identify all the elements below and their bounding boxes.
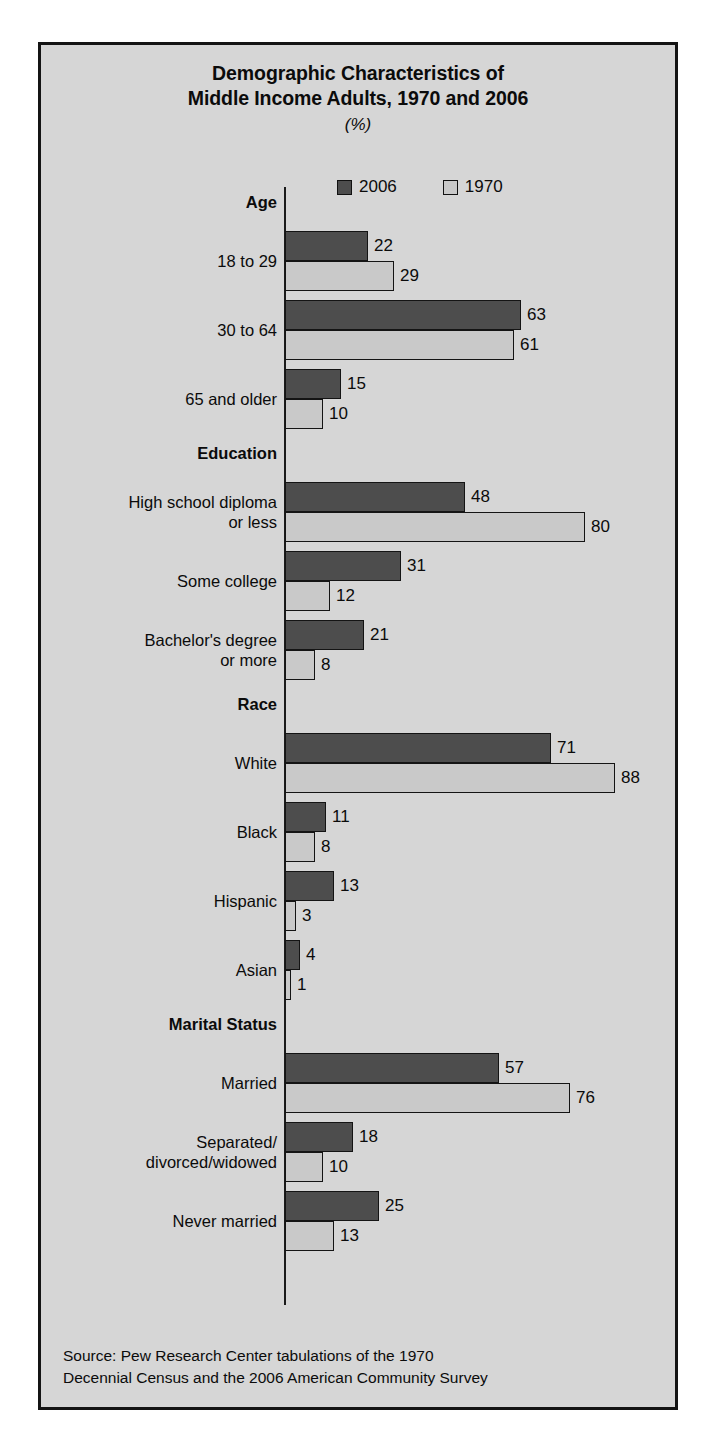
bar-value-white-1970: 88 [621,763,640,793]
bar-value-30-to-64-2006: 63 [527,300,546,330]
bar-married-1970 [285,1083,570,1113]
bar-value-separated-divorced-widowed-1970: 10 [329,1152,348,1182]
category-label-white: White [41,753,277,773]
bar-value-high-school-diploma-or-less-2006: 48 [471,482,490,512]
bar-high-school-diploma-or-less-2006 [285,482,465,512]
chart-plot-area: Age222918 to 29636130 to 64151065 and ol… [41,165,675,1305]
chart-title-line-2: Middle Income Adults, 1970 and 2006 [41,86,675,111]
bar-value-never-married-1970: 13 [340,1221,359,1251]
bar-value-hispanic-1970: 3 [302,901,311,931]
bar-separated-divorced-widowed-2006 [285,1122,353,1152]
bar-value-black-1970: 8 [321,832,330,862]
category-label-asian: Asian [41,960,277,980]
category-label-black: Black [41,822,277,842]
bar-hispanic-2006 [285,871,334,901]
source-note: Source: Pew Research Center tabulations … [63,1345,659,1389]
bar-value-married-2006: 57 [505,1053,524,1083]
bar-30-to-64-1970 [285,330,514,360]
bar-value-bachelor-s-degree-or-more-2006: 21 [370,620,389,650]
bar-asian-1970 [285,970,291,1000]
bar-high-school-diploma-or-less-1970 [285,512,585,542]
category-label-married: Married [41,1073,277,1093]
bar-value-asian-2006: 4 [306,940,315,970]
bar-value-separated-divorced-widowed-2006: 18 [359,1122,378,1152]
section-heading-race: Race [45,695,277,714]
chart-title-block: Demographic Characteristics of Middle In… [41,45,675,137]
bar-married-2006 [285,1053,499,1083]
bar-never-married-2006 [285,1191,379,1221]
category-label-line-2: divorced/widowed [41,1152,277,1172]
bar-never-married-1970 [285,1221,334,1251]
category-label-line-1: Bachelor's degree [41,630,277,650]
bar-black-1970 [285,832,315,862]
bar-65-and-older-2006 [285,369,341,399]
bar-hispanic-1970 [285,901,296,931]
bar-value-some-college-1970: 12 [336,581,355,611]
bar-bachelor-s-degree-or-more-2006 [285,620,364,650]
bar-value-18-to-29-2006: 22 [374,231,393,261]
source-note-line-1: Source: Pew Research Center tabulations … [63,1345,659,1367]
category-label-line-2: or more [41,650,277,670]
category-label-bachelor-s-degree-or-more: Bachelor's degreeor more [41,630,277,670]
source-note-line-2: Decennial Census and the 2006 American C… [63,1367,659,1389]
bar-value-65-and-older-1970: 10 [329,399,348,429]
bar-value-18-to-29-1970: 29 [400,261,419,291]
bar-value-30-to-64-1970: 61 [520,330,539,360]
category-label-separated-divorced-widowed: Separated/divorced/widowed [41,1132,277,1172]
category-label-18-to-29: 18 to 29 [41,251,277,271]
category-label-never-married: Never married [41,1211,277,1231]
bar-value-married-1970: 76 [576,1083,595,1113]
chart-frame: Demographic Characteristics of Middle In… [38,42,678,1410]
bar-value-never-married-2006: 25 [385,1191,404,1221]
section-heading-marital-status: Marital Status [45,1015,277,1034]
chart-subtitle: (%) [41,113,675,137]
bar-white-1970 [285,763,615,793]
bar-some-college-1970 [285,581,330,611]
category-label-65-and-older: 65 and older [41,389,277,409]
bar-white-2006 [285,733,551,763]
category-label-line-1: High school diploma [41,492,277,512]
bar-asian-2006 [285,940,300,970]
bar-value-bachelor-s-degree-or-more-1970: 8 [321,650,330,680]
bar-value-hispanic-2006: 13 [340,871,359,901]
bar-18-to-29-2006 [285,231,368,261]
bar-some-college-2006 [285,551,401,581]
category-label-line-1: Separated/ [41,1132,277,1152]
chart-title-line-1: Demographic Characteristics of [41,61,675,86]
category-label-hispanic: Hispanic [41,891,277,911]
section-heading-education: Education [45,444,277,463]
bar-value-high-school-diploma-or-less-1970: 80 [591,512,610,542]
bar-30-to-64-2006 [285,300,521,330]
bar-bachelor-s-degree-or-more-1970 [285,650,315,680]
category-label-line-2: or less [41,512,277,532]
bar-value-black-2006: 11 [332,802,350,832]
bar-18-to-29-1970 [285,261,394,291]
section-heading-age: Age [45,193,277,212]
bar-value-65-and-older-2006: 15 [347,369,366,399]
category-label-some-college: Some college [41,571,277,591]
bar-65-and-older-1970 [285,399,323,429]
bar-value-some-college-2006: 31 [407,551,426,581]
bar-value-asian-1970: 1 [297,970,306,1000]
bar-black-2006 [285,802,326,832]
category-label-high-school-diploma-or-less: High school diplomaor less [41,492,277,532]
category-label-30-to-64: 30 to 64 [41,320,277,340]
bar-separated-divorced-widowed-1970 [285,1152,323,1182]
bar-value-white-2006: 71 [557,733,576,763]
